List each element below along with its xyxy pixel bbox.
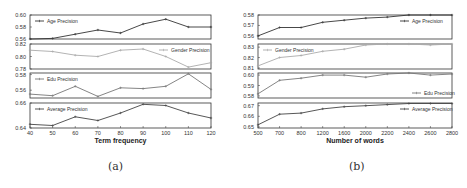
caption-b: (b) [349, 160, 365, 173]
legend-label: Age Precision [412, 18, 443, 24]
x-tick-label: 2600 [424, 130, 436, 136]
y-tick-label: 0.58 [15, 24, 26, 30]
y-tick-label: 0.66 [15, 100, 26, 106]
legend: Average Precision [35, 106, 88, 112]
y-tick-label: 0.65 [243, 124, 254, 130]
panel-edu-precision: 0.580.590.60Edu Precision [243, 72, 455, 99]
panel-gender-precision: 0.810.820.83Gender Precision [243, 43, 453, 71]
panel-gender-precision: 0.780.800.82Gender Precision [15, 41, 212, 72]
y-tick-label: 0.57 [243, 22, 254, 28]
y-tick-label: 0.66 [243, 113, 254, 119]
x-tick-label: 90 [140, 130, 146, 136]
y-tick-label: 0.67 [243, 103, 254, 109]
chart-a: 0.560.580.60Age Precision0.780.800.82Gen… [15, 12, 215, 145]
y-tick-label: 0.81 [243, 65, 254, 71]
x-tick-label: 120 [206, 130, 215, 136]
legend: Age Precision [35, 18, 78, 24]
x-axis-label: Term frequency [95, 137, 147, 145]
legend: Age Precision [400, 18, 443, 24]
x-tick-label: 100 [161, 130, 170, 136]
figure-canvas: 0.560.580.60Age Precision0.780.800.82Gen… [0, 0, 467, 188]
y-tick-label: 0.83 [243, 44, 254, 50]
chart-b: 0.560.570.58Age Precision0.810.820.83Gen… [243, 12, 458, 144]
legend: Gender Precision [263, 47, 314, 53]
x-tick-label: 2200 [381, 130, 393, 136]
x-tick-label: 2400 [403, 130, 415, 136]
y-tick-label: 0.60 [243, 72, 254, 78]
panel-average-precision: 0.650.660.67Average Precision [243, 102, 453, 130]
y-tick-label: 0.64 [15, 125, 26, 131]
panel-age-precision: 0.560.580.60Age Precision [15, 12, 212, 42]
legend-label: Average Precision [47, 106, 88, 112]
y-tick-label: 0.82 [15, 41, 26, 47]
x-tick-label: 50 [50, 130, 56, 136]
legend-label: Edu Precision [47, 76, 78, 82]
x-tick-label: 700 [275, 130, 284, 136]
panel-edu-precision: 0.560.58Edu Precision [15, 72, 212, 98]
legend-label: Edu Precision [424, 90, 455, 96]
y-tick-label: 0.56 [15, 87, 26, 93]
y-tick-label: 0.60 [15, 12, 26, 18]
y-tick-label: 0.58 [15, 72, 26, 78]
x-tick-label: 70 [95, 130, 101, 136]
y-tick-label: 0.80 [15, 54, 26, 60]
y-tick-label: 0.56 [243, 33, 254, 39]
y-tick-label: 0.82 [243, 55, 254, 61]
legend: Edu Precision [35, 76, 78, 82]
caption-a: (a) [108, 160, 123, 173]
legend-label: Gender Precision [171, 47, 210, 53]
legend-label: Average Precision [412, 106, 453, 112]
x-tick-label: 60 [72, 130, 78, 136]
legend: Edu Precision [412, 90, 455, 96]
legend: Average Precision [400, 106, 453, 112]
y-tick-label: 0.58 [243, 93, 254, 99]
y-tick-label: 0.59 [243, 83, 254, 89]
x-tick-label: 1600 [338, 130, 350, 136]
legend-label: Age Precision [47, 18, 78, 24]
x-tick-label: 500 [253, 130, 262, 136]
x-axis-label: Number of words [326, 137, 384, 144]
x-tick-label: 110 [184, 130, 193, 136]
x-tick-label: 80 [117, 130, 123, 136]
x-tick-label: 40 [27, 130, 33, 136]
legend-label: Gender Precision [275, 47, 314, 53]
panel-average-precision: 0.640.66Average Precision [15, 100, 212, 131]
x-tick-label: 2800 [446, 130, 458, 136]
legend: Gender Precision [159, 47, 210, 53]
series-line [258, 73, 452, 94]
panel-age-precision: 0.560.570.58Age Precision [243, 12, 453, 39]
y-tick-label: 0.58 [243, 12, 254, 18]
x-tick-label: 800 [297, 130, 306, 136]
x-tick-label: 1200 [317, 130, 329, 136]
x-tick-label: 2000 [360, 130, 372, 136]
